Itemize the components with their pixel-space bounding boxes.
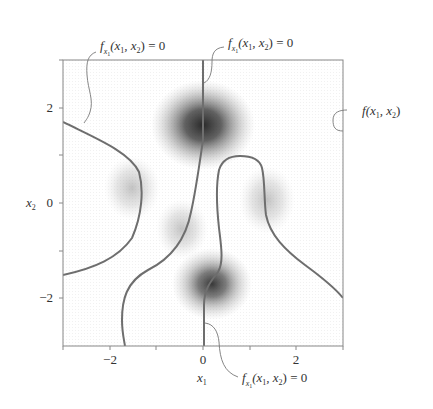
annotation-bottom: fx1(x1, x2) = 0 (242, 370, 307, 389)
contour-figure: −2 0 2 2 0 −2 x1 x2 fx1(x1, x2) = 0 fx1(… (0, 0, 433, 409)
x-tick-label: −2 (103, 352, 117, 367)
y-ticks (59, 60, 63, 346)
y-axis-label: x2 (25, 195, 36, 212)
annotation-top-left: fx1(x1, x2) = 0 (100, 38, 165, 57)
density-peak-right (239, 166, 295, 234)
annotation-top-center: fx1(x1, x2) = 0 (228, 35, 293, 54)
x-ticks (63, 346, 343, 350)
density-peak-center-left (156, 199, 208, 259)
x-tick-label: 0 (200, 352, 207, 367)
x-axis-label: x1 (196, 370, 207, 387)
y-tick-label: −2 (39, 290, 53, 305)
density-peak-left (104, 156, 160, 220)
y-tick-label: 2 (47, 100, 54, 115)
x-tick-label: 2 (293, 352, 300, 367)
annotation-right: f(x1, x2) (362, 103, 400, 120)
y-tick-label: 0 (47, 195, 54, 210)
